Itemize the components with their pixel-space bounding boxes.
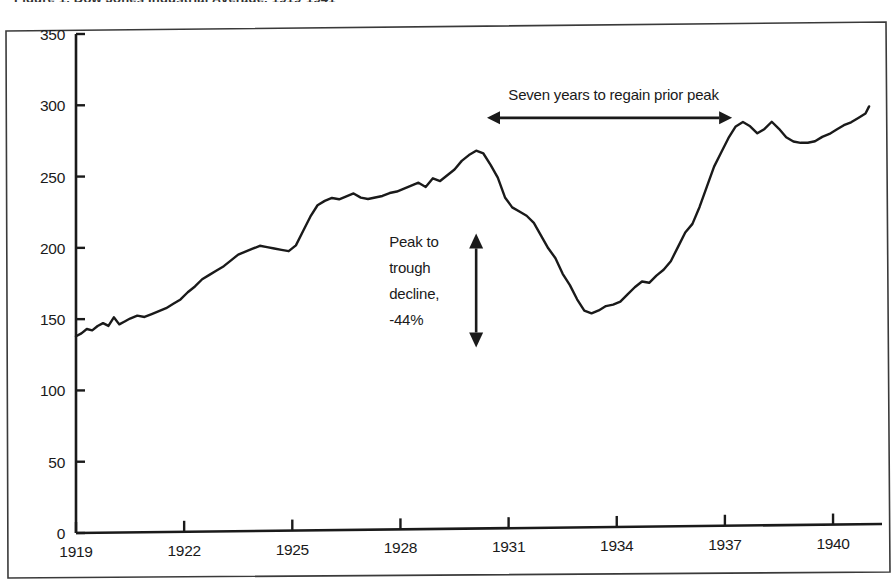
x-tick-label: 1940 (816, 535, 850, 552)
y-axis-ticks (76, 34, 85, 533)
clipped-figure-title: Figure 1. Dow Jones Industrial Average, … (14, 0, 336, 2)
peak-to-trough-label: Peak totroughdecline,-44% (389, 233, 439, 328)
x-axis-tick-labels: 19191922192519281931193419371940 (59, 535, 850, 560)
y-tick-label: 0 (57, 525, 66, 542)
peak-to-trough-label-line: decline, (389, 285, 439, 302)
index-level-line (76, 106, 869, 336)
x-tick-label: 1919 (59, 543, 92, 560)
x-tick-label: 1925 (276, 541, 309, 558)
y-tick-label: 100 (40, 382, 66, 399)
y-tick-label: 300 (40, 97, 66, 114)
chart-svg: 050100150200250300350 191919221925192819… (0, 0, 891, 585)
x-tick-label: 1931 (492, 538, 525, 555)
y-axis-tick-labels: 050100150200250300350 (40, 26, 66, 542)
y-tick-label: 250 (40, 169, 66, 186)
peak-to-trough-label-line: trough (389, 259, 430, 276)
seven-years-arrow (487, 111, 732, 124)
x-tick-label: 1928 (384, 539, 417, 556)
x-axis-ticks (76, 514, 833, 533)
y-tick-label: 350 (40, 26, 66, 43)
figure-border (6, 22, 890, 578)
seven-years-label: Seven years to regain prior peak (508, 86, 719, 103)
figure-container: Figure 1. Dow Jones Industrial Average, … (0, 0, 891, 585)
x-tick-label: 1922 (168, 542, 201, 559)
y-tick-label: 150 (40, 311, 66, 328)
peak-to-trough-label-line: -44% (389, 311, 423, 328)
x-tick-label: 1937 (708, 536, 741, 553)
x-axis-line (76, 524, 882, 533)
x-tick-label: 1934 (600, 537, 634, 554)
peak-to-trough-label-line: Peak to (389, 233, 438, 250)
peak-to-trough-arrow (469, 233, 483, 347)
y-tick-label: 50 (48, 454, 65, 471)
y-tick-label: 200 (40, 240, 66, 257)
